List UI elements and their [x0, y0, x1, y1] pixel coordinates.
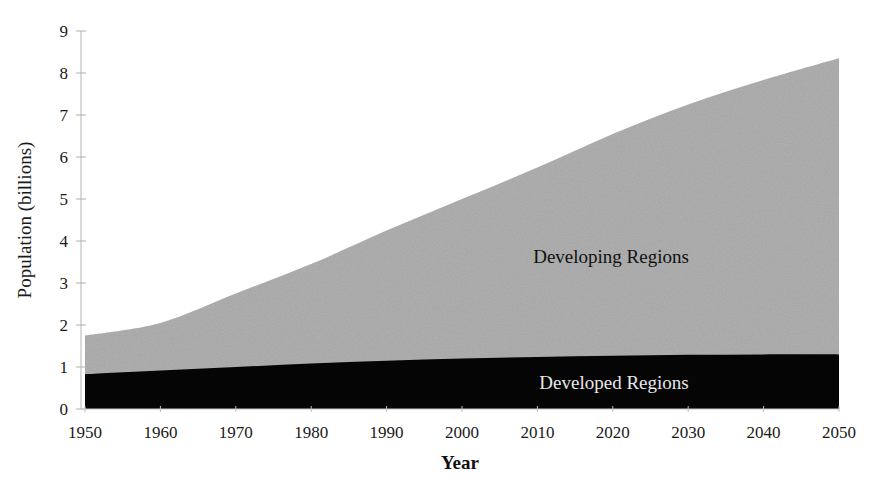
x-tick-label: 1960	[143, 423, 177, 442]
y-tick-label: 7	[60, 106, 69, 125]
x-tick-label: 1990	[370, 423, 404, 442]
y-tick-label: 3	[60, 274, 69, 293]
y-tick-label: 1	[60, 358, 69, 377]
x-axis: 1950196019701980199020002010202020302040…	[68, 406, 856, 442]
y-axis: 0123456789	[60, 22, 87, 419]
developed-regions-label: Developed Regions	[539, 372, 688, 393]
y-axis-title: Population (billions)	[14, 142, 36, 299]
x-tick-label: 2040	[747, 423, 781, 442]
x-axis-title: Year	[441, 452, 480, 473]
developing-regions-label: Developing Regions	[533, 246, 689, 267]
plot-area	[85, 58, 839, 409]
y-tick-label: 0	[60, 400, 69, 419]
y-tick-label: 2	[60, 316, 69, 335]
y-tick-label: 4	[60, 232, 69, 251]
x-tick-label: 2000	[445, 423, 479, 442]
x-tick-label: 1970	[219, 423, 253, 442]
x-tick-label: 2010	[520, 423, 554, 442]
x-tick-label: 2050	[822, 423, 856, 442]
y-tick-label: 9	[60, 22, 69, 41]
y-tick-label: 5	[60, 190, 69, 209]
y-tick-label: 6	[60, 148, 69, 167]
x-tick-label: 1950	[68, 423, 102, 442]
y-tick-label: 8	[60, 64, 69, 83]
x-tick-label: 2020	[596, 423, 630, 442]
population-area-chart: 0123456789 19501960197019801990200020102…	[0, 0, 871, 493]
x-tick-label: 2030	[671, 423, 705, 442]
x-tick-label: 1980	[294, 423, 328, 442]
